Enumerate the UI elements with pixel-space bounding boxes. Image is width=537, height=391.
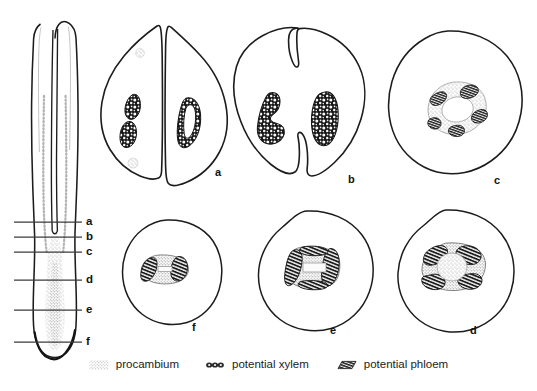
legend-item-procambium: procambium [89, 359, 179, 371]
potential-phloem-swatch-icon [335, 359, 357, 371]
section-line-label-b: b [86, 231, 93, 243]
section-label-e: e [330, 325, 336, 336]
section-line-label-e: e [86, 304, 92, 316]
legend-item-potential-xylem: potential xylem [205, 359, 309, 371]
tissue-legend: procambium potential xylem potential phl… [0, 352, 537, 378]
legend-item-potential-phloem: potential phloem [335, 359, 448, 371]
section-f [123, 220, 222, 325]
section-line-label-d: d [86, 274, 93, 286]
section-b-bundle-right [311, 92, 338, 146]
section-e [258, 211, 373, 331]
section-label-d: d [470, 325, 477, 336]
legend-label-potential-xylem: potential xylem [232, 359, 309, 371]
section-label-f: f [192, 322, 196, 333]
section-d-xylem [437, 253, 467, 281]
legend-label-potential-phloem: potential phloem [364, 359, 448, 371]
section-line-label-f: f [86, 336, 90, 348]
section-b-outline [234, 28, 365, 176]
figure-canvas [0, 0, 537, 391]
section-e-xylem [303, 263, 326, 272]
section-e-phloem-bottom [298, 281, 328, 290]
longitudinal-embryo-drawing [14, 22, 82, 360]
legend-label-procambium: procambium [116, 359, 179, 371]
section-a [101, 26, 227, 186]
section-a-speck-upper [136, 49, 145, 58]
section-a-speck-lower [128, 158, 138, 168]
section-f-xylem [158, 267, 172, 272]
section-label-c: c [494, 175, 500, 186]
section-c [389, 31, 523, 174]
potential-xylem-swatch-icon [205, 359, 225, 371]
procambium-swatch-icon [89, 359, 109, 371]
section-label-a: a [215, 167, 221, 178]
section-e-phloem-top [299, 246, 327, 256]
section-d [398, 210, 514, 332]
section-line-label-c: c [86, 246, 92, 258]
section-label-b: b [348, 174, 355, 185]
section-c-outline [389, 31, 523, 174]
section-line-label-a: a [86, 216, 92, 228]
section-b [234, 28, 365, 176]
